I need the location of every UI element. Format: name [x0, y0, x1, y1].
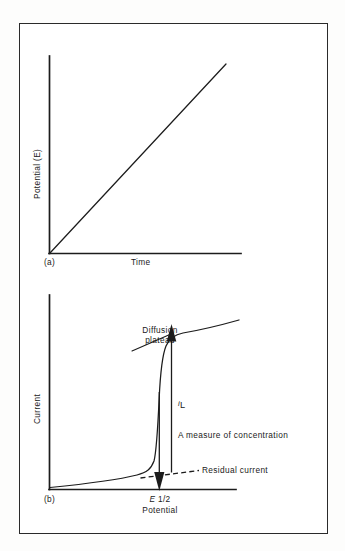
panel-b: Current Diffusion plateau iL A measure o…	[20, 272, 329, 535]
panel-b-limiting-current-subscript: L	[180, 400, 185, 410]
panel-a-x-axis-label: Time	[131, 257, 151, 267]
panel-b-y-axis-label: Current	[32, 394, 42, 424]
panel-b-residual-current-label: Residual current	[202, 465, 268, 475]
panel-b-diffusion-plateau-line1: Diffusion	[133, 325, 187, 335]
figure-root: Potential (E) Time (a)	[0, 0, 345, 551]
panel-b-concentration-note: A measure of concentration	[178, 430, 288, 440]
panel-b-tag: (b)	[44, 494, 55, 504]
panel-b-diffusion-plateau-line2: plateau	[133, 335, 187, 345]
panel-a: Potential (E) Time (a)	[20, 24, 329, 272]
panel-b-x-axis-label: Potential	[132, 505, 188, 515]
panel-b-diffusion-plateau-label: Diffusion plateau	[133, 325, 187, 346]
panel-a-tag: (a)	[44, 257, 55, 267]
panel-b-ehalf-label: E 1/2	[132, 494, 188, 504]
panel-a-y-axis-label: Potential (E)	[32, 149, 42, 199]
panel-b-limiting-current-symbol: i	[178, 399, 180, 408]
panel-a-ramp-line	[50, 64, 226, 253]
panel-b-ehalf-fraction: 1/2	[155, 494, 170, 504]
panel-b-ehalf-arrow-head-down	[154, 472, 164, 491]
figure-border-frame: Potential (E) Time (a)	[19, 23, 328, 534]
panel-b-residual-dashed-line	[141, 471, 200, 479]
panel-a-plot	[20, 24, 329, 272]
panel-b-limiting-current-label: iL	[178, 400, 186, 412]
